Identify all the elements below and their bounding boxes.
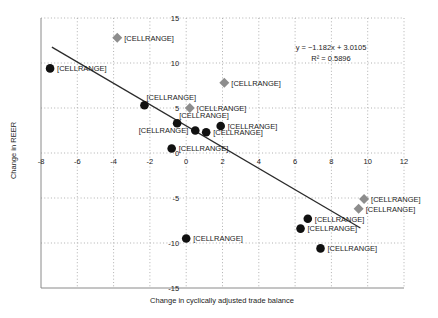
- x-tick-label: 8: [329, 157, 333, 166]
- point-label: [CELLRANGE]: [366, 205, 416, 214]
- r-squared-value: R² = 0.5896: [265, 53, 397, 64]
- point-label: [CELLRANGE]: [139, 126, 189, 135]
- y-tick-label: 10: [171, 59, 179, 68]
- chart-figure: -8-6-4-2024681012151050-5-10-15[CELLRANG…: [0, 0, 438, 318]
- data-point-circle: [202, 128, 211, 137]
- point-label: [CELLRANGE]: [124, 34, 174, 43]
- x-tick-label: -8: [38, 157, 45, 166]
- y-tick-label: -10: [168, 239, 179, 248]
- x-tick-label: 10: [364, 157, 372, 166]
- x-tick-label: -4: [110, 157, 117, 166]
- x-axis-title: Change in cyclically adjusted trade bala…: [81, 296, 363, 305]
- point-label: [CELLRANGE]: [315, 215, 365, 224]
- data-point-diamond: [354, 204, 364, 214]
- data-point-circle: [191, 126, 200, 135]
- data-point-diamond: [219, 78, 229, 88]
- x-tick-label: -6: [74, 157, 81, 166]
- trend-line: [52, 47, 361, 228]
- data-point-circle: [46, 64, 55, 73]
- point-label: [CELLRANGE]: [179, 144, 229, 153]
- data-point-diamond: [359, 194, 369, 204]
- x-tick-label: 2: [220, 157, 224, 166]
- trendline-equation: y = −1.182x + 3.0105: [265, 42, 397, 53]
- point-label: [CELLRANGE]: [228, 122, 278, 131]
- x-tick-label: 12: [400, 157, 408, 166]
- point-label: [CELLRANGE]: [193, 234, 243, 243]
- data-point-circle: [182, 234, 191, 243]
- point-label: [CELLRANGE]: [146, 93, 196, 102]
- x-tick-label: -2: [147, 157, 154, 166]
- point-label: [CELLRANGE]: [308, 224, 358, 233]
- point-label: [CELLRANGE]: [371, 195, 421, 204]
- data-point-circle: [167, 144, 176, 153]
- point-label: [CELLRANGE]: [328, 244, 378, 253]
- trendline-annotation: y = −1.182x + 3.0105 R² = 0.5896: [265, 42, 397, 64]
- y-tick-label: -15: [168, 284, 179, 293]
- y-tick-label: -5: [173, 194, 180, 203]
- x-tick-label: 0: [184, 157, 188, 166]
- x-tick-label: 4: [257, 157, 261, 166]
- point-label: [CELLRANGE]: [231, 79, 281, 88]
- y-tick-label: 15: [171, 14, 179, 23]
- data-point-circle: [296, 224, 305, 233]
- point-label: [CELLRANGE]: [57, 64, 107, 73]
- point-label: [CELLRANGE]: [197, 104, 247, 113]
- y-axis-title: Change in REER: [9, 81, 18, 221]
- data-point-circle: [316, 244, 325, 253]
- data-point-circle: [304, 214, 313, 223]
- x-tick-label: 6: [293, 157, 297, 166]
- data-point-circle: [216, 122, 225, 131]
